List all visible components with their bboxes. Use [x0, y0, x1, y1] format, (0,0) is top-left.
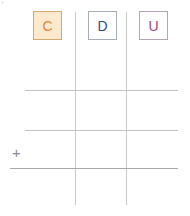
column-header-units-label: U: [148, 19, 158, 33]
divider-hundreds-tens: [75, 12, 76, 205]
column-header-units[interactable]: U: [139, 11, 168, 40]
place-value-worksheet: C D U +: [0, 0, 190, 216]
total-rule: [10, 168, 178, 169]
column-header-hundreds-label: C: [42, 19, 52, 33]
row-line-1: [25, 90, 178, 91]
column-header-tens-label: D: [97, 19, 107, 33]
row-line-2: [25, 130, 178, 131]
divider-tens-units: [126, 12, 127, 205]
corner-artifact: [1, 1, 4, 4]
addition-operator: +: [12, 145, 21, 160]
column-header-hundreds[interactable]: C: [33, 11, 62, 40]
column-header-tens[interactable]: D: [88, 11, 117, 40]
